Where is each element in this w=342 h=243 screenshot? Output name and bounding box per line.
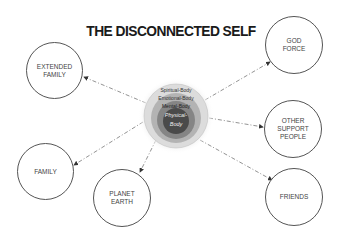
node-planet-earth: PLANET EARTH bbox=[93, 169, 151, 227]
node-other-support-people: OTHER SUPPORT PEOPLE bbox=[264, 100, 322, 158]
node-god-force: GOD FORCE bbox=[265, 16, 323, 74]
physical-body-label-line1: Physical- bbox=[160, 111, 192, 119]
node-other-support-people-label: OTHER SUPPORT PEOPLE bbox=[277, 117, 308, 141]
spiritual-body-label: Spiritual-Body bbox=[150, 87, 202, 93]
mental-body-label: Mental-Body bbox=[156, 103, 196, 109]
node-friends: FRIENDS bbox=[265, 168, 323, 226]
node-extended-family: EXTENDED FAMILY bbox=[26, 42, 83, 99]
edge-god-force bbox=[205, 62, 270, 100]
emotional-body-label: Emotional-Body bbox=[152, 95, 200, 101]
node-friends-label: FRIENDS bbox=[280, 193, 309, 201]
edge-other-support-people bbox=[209, 118, 263, 127]
edge-friends bbox=[200, 140, 272, 180]
edge-extended-family bbox=[84, 77, 146, 103]
node-extended-family-label: EXTENDED FAMILY bbox=[37, 63, 72, 79]
node-god-force-label: GOD FORCE bbox=[283, 37, 306, 53]
physical-body-label-line2: Body bbox=[160, 120, 192, 128]
edge-family bbox=[74, 122, 143, 165]
node-planet-earth-label: PLANET EARTH bbox=[109, 190, 134, 206]
node-family: FAMILY bbox=[17, 143, 74, 200]
node-family-label: FAMILY bbox=[34, 168, 57, 176]
